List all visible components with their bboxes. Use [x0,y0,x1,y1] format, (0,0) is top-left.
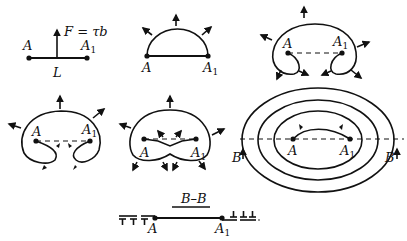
arrow-icon [202,27,211,35]
arrow-icon [56,143,60,148]
label-a: A [141,60,151,75]
arrow-icon [339,124,343,130]
section-title: B–B [180,191,207,206]
pin-point-a1 [339,50,344,55]
arrow-icon [261,35,272,40]
arrow-icon [158,131,163,137]
middle-loop [258,100,378,180]
label-a1: A1 [339,143,355,160]
pin-point-a [144,53,149,58]
pin-point-a [290,136,295,141]
label-a: A [282,36,292,51]
section-view: B–B A A1 [119,191,260,238]
arrow-icon [120,124,131,128]
panel-loops-approach: A A1 [9,96,104,170]
arrow-icon [9,124,21,128]
section-label-b-right: B [384,150,395,165]
frank-read-source-diagram: A A1 L F = τb A A1 A A1 [0,0,407,241]
arrow-icon [176,131,181,137]
label-a: A [147,221,157,236]
pin-point-a [285,50,290,55]
arrow-icon [133,162,137,170]
arrow-icon [322,71,331,75]
force-label: F = τb [63,24,108,39]
panel-curl: A A1 [261,7,369,79]
outer-loop [242,88,394,192]
pin-point-a [33,138,38,143]
pin-point-a1 [87,138,92,143]
arrow-icon [299,124,303,130]
inner-line [144,139,196,146]
label-a: A [31,124,41,139]
arrow-icon [42,165,47,170]
pin-point-a1 [193,136,198,141]
arrow-icon [212,129,224,135]
label-a1: A1 [190,145,206,162]
panel-semicircle: A A1 [141,15,218,77]
arrow-icon [143,28,152,35]
label-a: A [139,145,149,160]
label-a1: A1 [202,60,218,77]
pin-point-a1 [84,55,89,60]
label-l: L [52,65,62,80]
arrow-icon [93,109,104,118]
arrow-icon [173,162,177,170]
label-a1: A1 [80,38,96,55]
panel-straight-segment: A A1 L F = τb [22,24,108,80]
pin-point-a [141,136,146,141]
arrow-icon [199,161,205,169]
arrow-icon [73,165,77,170]
panel-concentric-loops: A A1 B B [231,88,404,192]
arrow-icon [357,42,369,47]
label-a: A [22,38,32,53]
arrow-icon [299,71,308,75]
bowed-line [147,29,208,56]
arrow-icon [163,162,167,170]
arrow-icon [351,70,361,78]
pin-point-a1 [347,136,352,141]
section-label-b-left: B [231,150,242,165]
label-a1: A1 [332,34,348,51]
regenerated-line [293,129,350,139]
arrow-icon [68,143,72,148]
arrow-icon [277,70,281,79]
label-a1: A1 [214,221,230,238]
pin-point-a1 [205,53,210,58]
pin-point-a [26,55,31,60]
label-a: A [287,143,297,158]
panel-loops-joined: A A1 [120,96,224,170]
dislocation-symbols-right [222,211,260,221]
